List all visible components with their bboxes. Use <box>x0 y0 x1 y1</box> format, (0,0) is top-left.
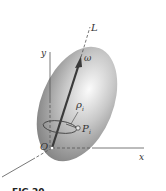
label-rho: ρ <box>75 99 82 110</box>
rigid-body-rotation-diagram: L ω y x O ρ i P i FIG 20 <box>0 0 166 191</box>
label-x-axis: x <box>139 152 144 162</box>
z-axis <box>2 158 35 177</box>
origin-point <box>51 147 54 150</box>
label-omega: ω <box>84 53 92 63</box>
label-point-sub: i <box>89 128 91 135</box>
label-origin: O <box>40 141 48 152</box>
label-rho-sub: i <box>82 105 84 112</box>
label-l-axis: L <box>90 22 98 33</box>
figure-caption: FIG 20 <box>12 187 45 191</box>
label-point: P <box>81 123 89 134</box>
label-y-axis: y <box>40 48 47 58</box>
point-pi <box>76 126 80 130</box>
